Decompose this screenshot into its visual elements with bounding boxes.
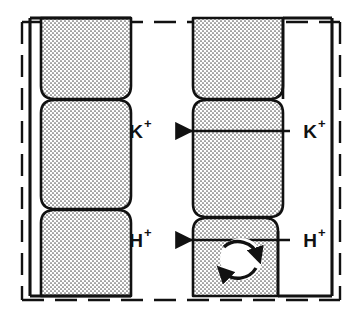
ion-transport-diagram: K + K + H + H + [0, 0, 362, 322]
diagram-canvas: K + K + H + H + [0, 0, 362, 322]
potassium-inner-label-superscript: + [144, 116, 152, 131]
potassium-inner-label: K + [129, 116, 152, 142]
potassium-outer-label-superscript: + [318, 116, 326, 131]
right-cell-top [193, 18, 283, 99]
proton-inner-label: H + [129, 225, 152, 251]
right-cell-column [193, 18, 332, 296]
proton-outer-label: H + [303, 225, 326, 251]
left-cell-top [41, 18, 131, 99]
proton-outer-label-base: H [303, 230, 317, 251]
left-cell-bottom [41, 210, 131, 296]
left-cell-column [30, 18, 131, 296]
potassium-outer-label-base: K [303, 121, 317, 142]
proton-inner-label-superscript: + [144, 225, 152, 240]
proton-pump-cycle-icon [220, 238, 262, 280]
proton-inner-label-base: H [129, 230, 143, 251]
potassium-inner-label-base: K [129, 121, 143, 142]
left-cell-middle [41, 100, 131, 209]
proton-outer-label-superscript: + [318, 225, 326, 240]
right-cell-middle [193, 100, 283, 217]
potassium-outer-label: K + [303, 116, 326, 142]
